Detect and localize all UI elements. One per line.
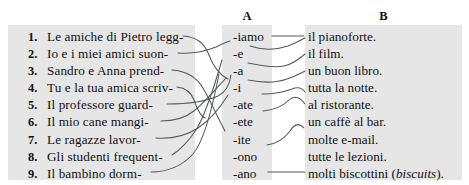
complement-item[interactable]: molte e-mail.	[308, 131, 466, 148]
ending-item[interactable]: -a	[233, 62, 293, 79]
column-b-header: B	[305, 9, 462, 24]
complement-item[interactable]: il film.	[308, 45, 466, 62]
stem-number: 5.	[28, 97, 47, 114]
ending-item[interactable]: -ite	[233, 131, 293, 148]
stem-text: Il mio cane mangi-	[47, 114, 149, 129]
complement-gloss: biscuits	[396, 166, 436, 181]
column-a-header: A	[222, 9, 272, 24]
stem-text: Le ragazze lavor-	[47, 132, 141, 147]
stem-text: Le amiche di Pietro legg-	[47, 29, 184, 44]
column-b-list: il pianoforte. il film. un buon libro. t…	[308, 28, 466, 182]
stem-row[interactable]: 2.Io e i miei amici suon-	[28, 45, 208, 62]
stem-text: Il professore guard-	[47, 97, 153, 112]
stem-row[interactable]: 8.Gli studenti frequent-	[28, 148, 208, 165]
stem-number: 4.	[28, 80, 47, 97]
complement-item[interactable]: tutte le lezioni.	[308, 148, 466, 165]
complement-text: molti biscottini (	[308, 166, 396, 181]
ending-item[interactable]: -i	[233, 79, 293, 96]
column-a-list: -iamo -e -a -i -ate -ete -ite -ono -ano	[233, 28, 293, 182]
stem-row[interactable]: 5.Il professore guard-	[28, 96, 208, 113]
ending-item[interactable]: -ano	[233, 165, 293, 182]
stem-number: 6.	[28, 114, 47, 131]
stem-text: Il bambino dorm-	[47, 166, 142, 181]
stem-row[interactable]: 9.Il bambino dorm-	[28, 165, 208, 182]
stem-text: Gli studenti frequent-	[47, 149, 163, 164]
ending-item[interactable]: -iamo	[233, 28, 293, 45]
stem-row[interactable]: 1.Le amiche di Pietro legg-	[28, 28, 208, 45]
complement-item-with-gloss[interactable]: molti biscottini (biscuits).	[308, 165, 466, 182]
complement-text-after: ).	[436, 166, 444, 181]
complement-item[interactable]: tutta la notte.	[308, 79, 466, 96]
complement-item[interactable]: un caffè al bar.	[308, 113, 466, 130]
stem-number: 1.	[28, 29, 47, 46]
stem-row[interactable]: 6.Il mio cane mangi-	[28, 113, 208, 130]
stem-text: Tu e la tua amica scriv-	[47, 80, 173, 95]
ending-item[interactable]: -e	[233, 45, 293, 62]
stem-number: 9.	[28, 166, 47, 183]
ending-item[interactable]: -ete	[233, 113, 293, 130]
stem-number: 7.	[28, 132, 47, 149]
left-column: 1.Le amiche di Pietro legg- 2.Io e i mie…	[28, 28, 208, 182]
stem-number: 2.	[28, 46, 47, 63]
stem-row[interactable]: 4.Tu e la tua amica scriv-	[28, 79, 208, 96]
complement-item[interactable]: al ristorante.	[308, 96, 466, 113]
matching-exercise: A B 1.Le amiche di Pietro legg- 2.Io e i…	[0, 0, 469, 185]
complement-item[interactable]: un buon libro.	[308, 62, 466, 79]
complement-item[interactable]: il pianoforte.	[308, 28, 466, 45]
stem-number: 3.	[28, 63, 47, 80]
ending-item[interactable]: -ono	[233, 148, 293, 165]
stem-row[interactable]: 3.Sandro e Anna prend-	[28, 62, 208, 79]
stem-number: 8.	[28, 149, 47, 166]
ending-item[interactable]: -ate	[233, 96, 293, 113]
stem-text: Io e i miei amici suon-	[47, 46, 168, 61]
stem-text: Sandro e Anna prend-	[47, 63, 164, 78]
stem-row[interactable]: 7.Le ragazze lavor-	[28, 131, 208, 148]
